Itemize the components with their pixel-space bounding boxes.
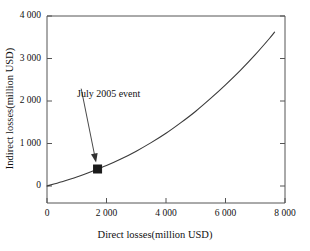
july-2005-event-marker xyxy=(94,165,102,173)
y-tick-label-0: 0 xyxy=(7,181,41,191)
y-tick-label-4000: 4 000 xyxy=(7,11,41,21)
y-tick-marks xyxy=(47,16,285,186)
x-tick-label-4000: 4 000 xyxy=(155,209,176,219)
x-tick-marks xyxy=(47,198,285,203)
chart-figure: 4 000 3 000 2 000 1 000 0 0 2 000 4 000 … xyxy=(0,0,310,251)
x-tick-label-2000: 2 000 xyxy=(96,209,117,219)
annotation-arrow xyxy=(81,89,97,163)
y-axis-title: Indirect losses(million USD) xyxy=(4,39,15,179)
x-tick-label-0: 0 xyxy=(45,209,50,219)
annotation-july-2005-event: July 2005 event xyxy=(77,88,140,99)
x-axis-title: Direct losses(million USD) xyxy=(0,229,310,240)
x-tick-label-8000: 8 000 xyxy=(274,209,295,219)
x-tick-label-6000: 6 000 xyxy=(215,209,236,219)
loss-curve xyxy=(47,32,275,186)
